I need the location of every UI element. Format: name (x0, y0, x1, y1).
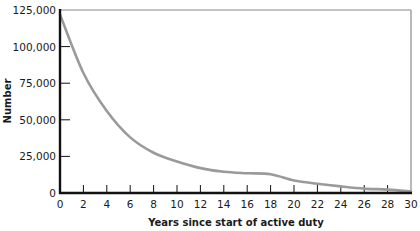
x-tick-label: 12 (194, 198, 207, 210)
x-tick-label: 0 (57, 198, 64, 210)
x-tick-label: 16 (241, 198, 255, 210)
y-tick-label: 50,000 (19, 114, 56, 126)
x-tick-label: 2 (80, 198, 87, 210)
x-tick-label: 18 (264, 198, 277, 210)
x-tick-label: 22 (311, 198, 324, 210)
data-series (60, 14, 411, 191)
plot-frame (60, 10, 411, 193)
y-tick-label: 100,000 (13, 41, 56, 53)
x-tick-label: 4 (103, 198, 110, 210)
y-tick-label: 0 (49, 187, 56, 199)
x-tick-label: 6 (127, 198, 134, 210)
series-line (60, 14, 411, 191)
y-axis-title: Number (2, 79, 13, 124)
line-chart: 025,00050,00075,000100,000125,000 024681… (0, 0, 420, 231)
x-tick-label: 14 (217, 198, 231, 210)
x-tick-label: 20 (287, 198, 300, 210)
x-tick-label: 8 (150, 198, 157, 210)
x-tick-label: 24 (334, 198, 348, 210)
x-tick-label: 30 (404, 198, 417, 210)
x-tick-label: 26 (358, 198, 372, 210)
y-axis-ticks: 025,00050,00075,000100,000125,000 (13, 4, 70, 199)
x-axis-title: Years since start of active duty (147, 217, 324, 228)
y-tick-label: 25,000 (19, 150, 56, 162)
y-tick-label: 125,000 (13, 4, 56, 16)
x-tick-label: 10 (170, 198, 183, 210)
axes (59, 9, 412, 194)
x-tick-label: 28 (381, 198, 394, 210)
y-tick-label: 75,000 (19, 77, 56, 89)
